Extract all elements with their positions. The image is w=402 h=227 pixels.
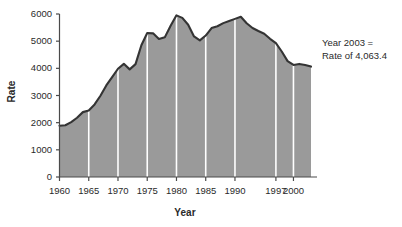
rate-by-year-area-chart: Rate Year 0100020003000400050006000 1960…: [0, 0, 402, 227]
chart-plot-area: [0, 0, 402, 227]
annotation-line-2: Rate of 4,063.4: [322, 49, 387, 62]
chart-annotation: Year 2003 = Rate of 4,063.4: [322, 36, 387, 62]
area-fill: [60, 15, 312, 177]
annotation-line-1: Year 2003 =: [322, 36, 387, 49]
